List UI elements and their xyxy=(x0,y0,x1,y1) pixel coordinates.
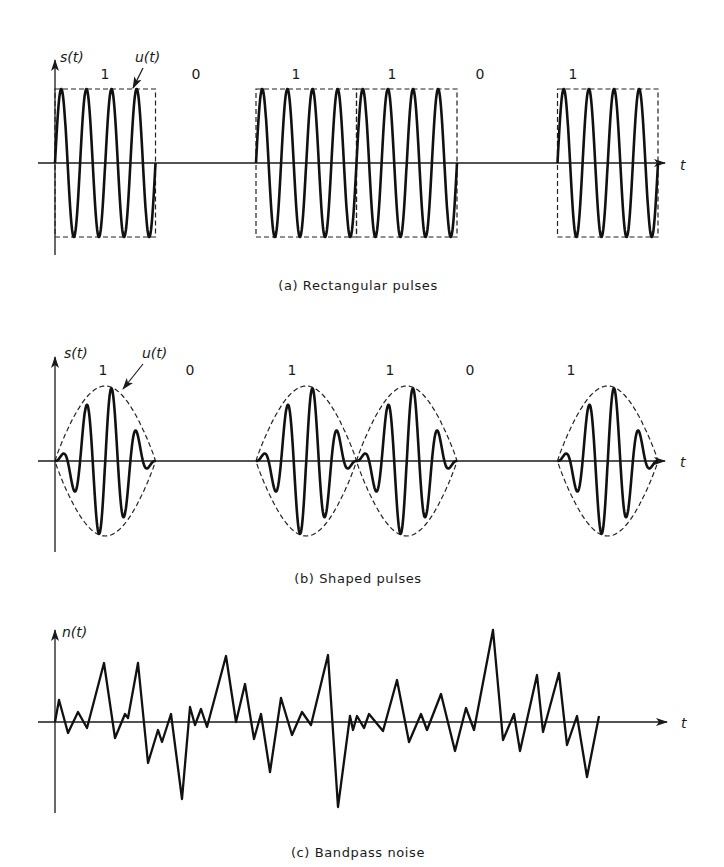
bit-label: 0 xyxy=(476,66,485,82)
caption: (b) Shaped pulses xyxy=(294,571,421,586)
x-axis-label: t xyxy=(681,715,687,731)
bit-label: 1 xyxy=(567,362,576,378)
panel-c-bandpass-noise: n(t) t (c) Bandpass noise xyxy=(38,624,687,860)
caption: (c) Bandpass noise xyxy=(291,845,425,860)
bit-label: 1 xyxy=(99,362,108,378)
bit-label: 1 xyxy=(386,362,395,378)
panel-a-rectangular-pulses: s(t) u(t) t 1 0 1 1 0 1 (a) Rectangular … xyxy=(38,49,686,293)
envelope-label: u(t) xyxy=(142,345,167,361)
bit-label: 1 xyxy=(388,66,397,82)
envelope-pointer-arrow xyxy=(133,68,143,88)
bit-label: 1 xyxy=(288,362,297,378)
figure: s(t) u(t) t 1 0 1 1 0 1 (a) Rectangular … xyxy=(0,0,724,867)
bit-label: 0 xyxy=(192,66,201,82)
envelope-pointer-arrow xyxy=(123,364,143,389)
y-axis-label: n(t) xyxy=(62,624,87,640)
bit-label: 1 xyxy=(292,66,301,82)
bit-labels: 1 0 1 1 0 1 xyxy=(99,362,576,378)
y-axis-label: s(t) xyxy=(64,345,88,361)
x-axis-label: t xyxy=(680,157,686,173)
caption: (a) Rectangular pulses xyxy=(278,278,438,293)
bit-label: 1 xyxy=(101,66,110,82)
panel-b-shaped-pulses: s(t) u(t) t 1 0 1 1 0 1 (b) Shaped pulse… xyxy=(38,345,686,586)
y-axis-label: s(t) xyxy=(60,49,84,65)
bit-labels: 1 0 1 1 0 1 xyxy=(101,66,578,82)
bit-label: 0 xyxy=(186,362,195,378)
bit-label: 1 xyxy=(569,66,578,82)
bit-label: 0 xyxy=(466,362,475,378)
envelope-label: u(t) xyxy=(135,49,160,65)
x-axis-label: t xyxy=(680,454,686,470)
noise-signal xyxy=(55,630,599,807)
